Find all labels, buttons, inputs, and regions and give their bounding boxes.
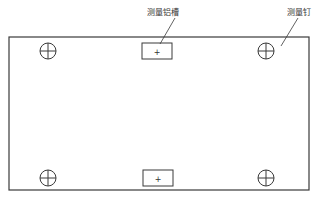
measuring-slot-top: + — [142, 43, 172, 59]
slot-leader-line — [160, 18, 175, 44]
measuring-slot-bottom: + — [143, 170, 173, 186]
slot-label: 测量铝槽 — [147, 7, 179, 17]
measuring-pin-top-right-icon — [258, 43, 274, 59]
measuring-pin-top-left-icon — [40, 43, 56, 59]
plate-outline — [9, 37, 309, 190]
measuring-pin-bottom-right-icon — [258, 170, 274, 186]
measuring-pin-bottom-left-icon — [40, 170, 56, 186]
slot-marker: + — [154, 48, 161, 57]
pin-leader-line — [281, 18, 298, 46]
plate-diagram: + + 测量铝槽 测量钉 — [0, 0, 319, 197]
slot-marker: + — [155, 175, 162, 184]
pin-label: 测量钉 — [287, 7, 311, 17]
